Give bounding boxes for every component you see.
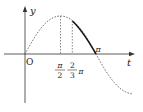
sine-graph: y t O π 2 2 3 π π (0, 0, 143, 112)
tick-two-thirds-numerator: 2 (70, 61, 75, 70)
origin-label: O (26, 57, 33, 67)
tick-pi-over-2-numerator: π (57, 61, 64, 70)
y-axis-arrow-icon (23, 6, 27, 12)
tick-two-thirds-pi-symbol: π (78, 67, 85, 76)
tick-pi-over-2-denominator: 2 (58, 71, 63, 80)
sine-curve-highlight (72, 21, 96, 54)
t-axis-label: t (127, 57, 132, 68)
tick-pi-label: π (95, 45, 102, 54)
y-axis-label: y (29, 5, 36, 16)
t-axis-arrow-icon (129, 52, 135, 56)
tick-two-thirds-denominator: 3 (70, 71, 75, 80)
